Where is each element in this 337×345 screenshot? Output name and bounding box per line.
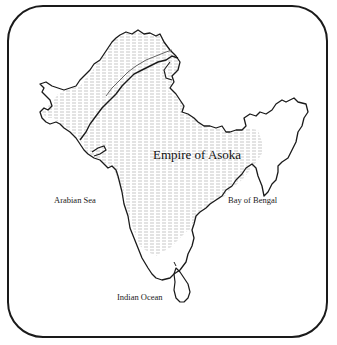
- adams-bridge: [174, 262, 176, 266]
- empire-label: Empire of Asoka: [153, 147, 241, 163]
- bay-of-bengal-label: Bay of Bengal: [228, 195, 277, 205]
- indian-ocean-label: Indian Ocean: [117, 292, 163, 302]
- arabian-sea-label: Arabian Sea: [54, 195, 96, 205]
- india-map: [0, 0, 337, 345]
